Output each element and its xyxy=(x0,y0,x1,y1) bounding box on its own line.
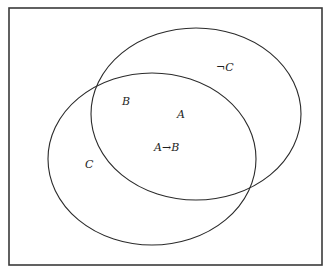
label-a-implies-b: A→B xyxy=(153,141,179,154)
label-c: C xyxy=(85,158,94,171)
diagram-frame xyxy=(9,8,322,265)
label-not-c: ¬C xyxy=(216,61,234,74)
upper-right-set-ellipse xyxy=(91,28,301,200)
lower-left-set-ellipse xyxy=(48,73,256,245)
venn-diagram: ¬C B A A→B C xyxy=(0,0,331,275)
label-a: A xyxy=(176,108,185,121)
label-b: B xyxy=(121,95,130,108)
